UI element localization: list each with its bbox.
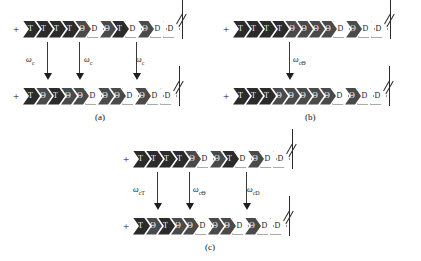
rate-constant-label: ωcT xyxy=(133,185,145,196)
protofilament-strand: T T T T Θ Θ Θ Θ D Θ D D xyxy=(233,21,384,38)
panel-b: + T T T T Θ Θ Θ Θ D Θ D D ωcΘ + T T T Θ xyxy=(210,0,421,130)
protofilament-strand: T Θ T Θ Θ D Θ Θ D Θ D D xyxy=(23,88,173,105)
transition-arrow xyxy=(152,172,164,212)
panel-caption: (b) xyxy=(305,112,316,122)
rate-constant-label: ωc xyxy=(84,55,92,66)
rate-constant-label: ωc xyxy=(26,55,34,66)
panel-c: + T T T T Θ D Θ T D Θ D D ωcT ωcΘ ω xyxy=(105,130,335,261)
rate-constant-label: ωcD xyxy=(247,185,260,196)
panel-a-bottom-strand-row: + T Θ T Θ Θ D Θ Θ D Θ D D xyxy=(12,85,186,107)
rate-constant-label: ωc xyxy=(136,55,144,66)
panel-a: + T T T T Θ D Θ T D Θ D D ωc ωc ωc xyxy=(0,0,211,130)
panel-a-top-strand-row: + T T T T Θ D Θ T D Θ D D xyxy=(12,18,189,40)
panel-b-top-strand-row: + T T T T Θ Θ Θ Θ D Θ D D xyxy=(222,18,397,40)
panel-caption: (a) xyxy=(95,112,105,122)
protofilament-strand: T T T T Θ D Θ T D Θ D D xyxy=(133,151,286,168)
transition-arrow xyxy=(42,42,54,82)
rate-constant-label: ωcΘ xyxy=(193,185,206,196)
panel-b-bottom-strand-row: + T T T Θ Θ Θ Θ Θ D Θ D D xyxy=(222,85,396,107)
protofilament-strand: T T T Θ Θ Θ Θ Θ D Θ D D xyxy=(233,88,383,105)
plus-end-label: + xyxy=(222,24,230,35)
plus-end-label: + xyxy=(222,91,230,102)
plus-end-label: + xyxy=(122,154,130,165)
plus-end-label: + xyxy=(12,91,20,102)
panel-c-top-strand-row: + T T T T Θ D Θ T D Θ D D xyxy=(122,148,299,170)
panel-c-bottom-strand-row: + T Θ T Θ Θ D Θ Θ D Θ D D xyxy=(122,215,296,237)
rate-constant-label: ωcΘ xyxy=(293,55,306,66)
protofilament-strand: T T T T Θ D Θ T D Θ D D xyxy=(23,21,176,38)
protofilament-strand: T Θ T Θ Θ D Θ Θ D Θ D D xyxy=(133,218,283,235)
panel-caption: (c) xyxy=(205,242,215,252)
plus-end-label: + xyxy=(12,24,20,35)
plus-end-label: + xyxy=(122,221,130,232)
